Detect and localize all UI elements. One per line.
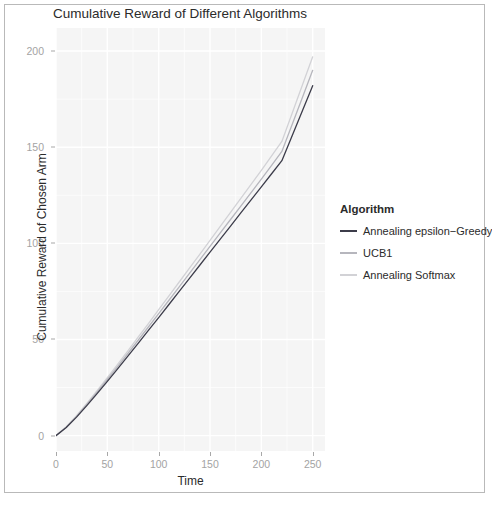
chart-title: Cumulative Reward of Different Algorithm…	[30, 6, 330, 21]
y-tick-mark	[51, 435, 55, 436]
legend-line-swatch-icon	[340, 247, 357, 258]
y-axis-title: Cumulative Reward of Chosen Arm	[35, 47, 49, 447]
legend-entry[interactable]: Annealing Softmax	[340, 266, 485, 283]
x-tick-label: 200	[241, 458, 281, 470]
x-tick-label: 0	[36, 458, 76, 470]
x-tick-mark	[107, 452, 108, 456]
legend-title: Algorithm	[340, 203, 485, 215]
legend-entry-label: Annealing Softmax	[363, 269, 455, 281]
legend-entry-label: UCB1	[363, 247, 392, 259]
x-tick-label: 50	[87, 458, 127, 470]
y-tick-mark	[51, 51, 55, 52]
x-tick-mark	[210, 452, 211, 456]
y-tick-mark	[51, 147, 55, 148]
legend-entry-label: Annealing epsilon−Greedy	[363, 225, 492, 237]
plot-panel	[56, 28, 325, 451]
legend-entry[interactable]: Annealing epsilon−Greedy	[340, 222, 485, 239]
legend-entry[interactable]: UCB1	[340, 244, 485, 261]
y-tick-mark	[51, 243, 55, 244]
x-axis-title: Time	[56, 474, 325, 488]
x-tick-mark	[261, 452, 262, 456]
x-tick-label: 250	[293, 458, 333, 470]
legend: Algorithm Annealing epsilon−GreedyUCB1An…	[340, 203, 485, 288]
x-tick-mark	[56, 452, 57, 456]
y-tick-mark	[51, 339, 55, 340]
legend-line-swatch-icon	[340, 225, 357, 236]
legend-line-swatch-icon	[340, 269, 357, 280]
x-tick-mark	[159, 452, 160, 456]
x-tick-label: 150	[190, 458, 230, 470]
plot-svg	[56, 28, 325, 451]
x-tick-mark	[313, 452, 314, 456]
x-tick-label: 100	[139, 458, 179, 470]
legend-entries: Annealing epsilon−GreedyUCB1Annealing So…	[340, 222, 485, 283]
